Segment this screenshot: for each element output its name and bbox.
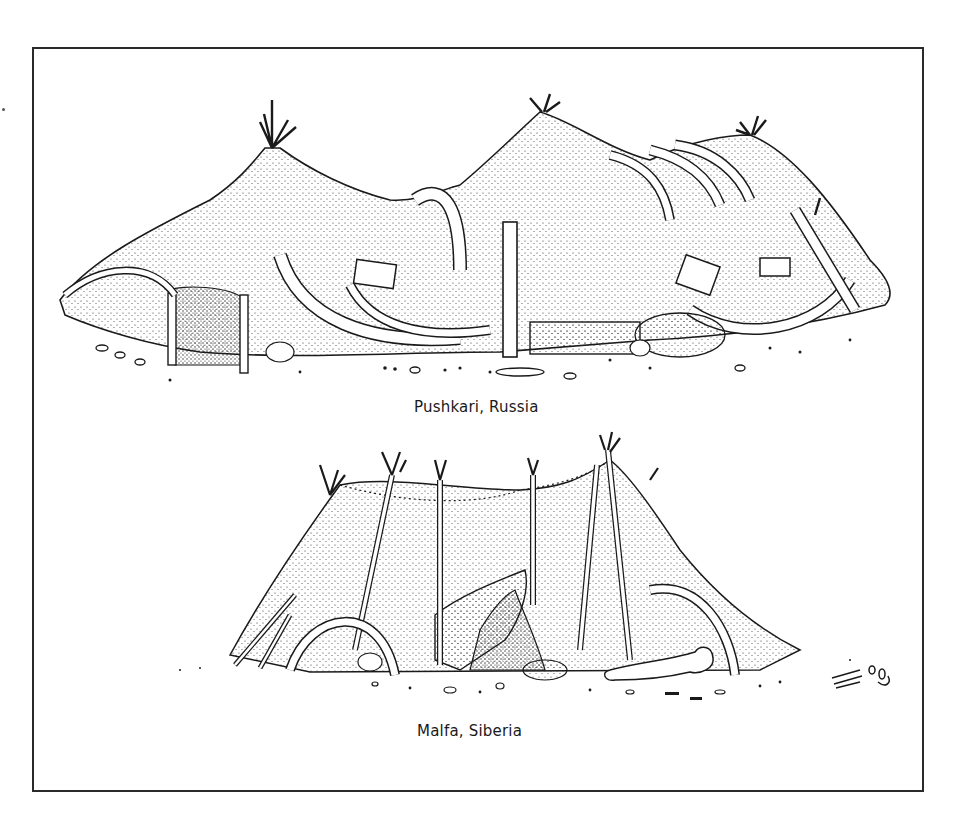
pushkari-drawing: [50, 90, 910, 390]
malfa-drawing: [160, 430, 900, 715]
caption-malfa: Malfa, Siberia: [417, 722, 522, 740]
malfa-dwelling-illustration: [160, 430, 900, 715]
scan-speck: [2, 108, 5, 111]
caption-pushkari: Pushkari, Russia: [414, 398, 539, 416]
pushkari-dwelling-illustration: [50, 90, 910, 390]
